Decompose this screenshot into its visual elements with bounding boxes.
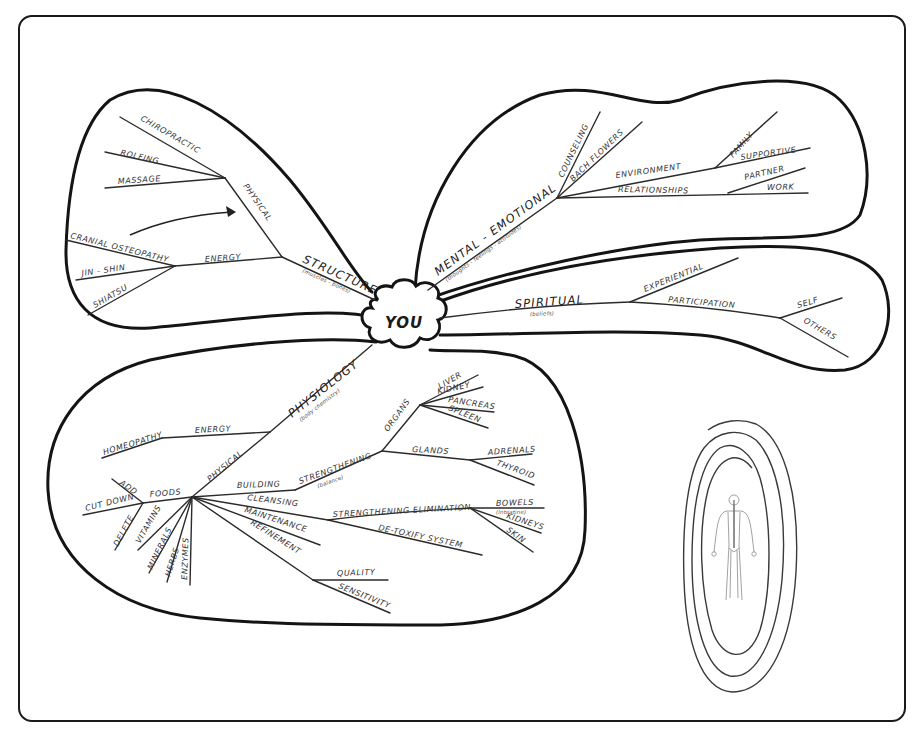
chiropractic-label: CHIROPRACTIC: [139, 114, 202, 155]
delete-label: DELETE: [112, 513, 136, 548]
structure-physical-label: PHYSICAL: [241, 182, 273, 223]
physiology-label: PHYSIOLOGY: [285, 357, 361, 421]
environment-label: ENVIRONMENT: [615, 162, 682, 180]
human-figure-spiral-illustration: [684, 421, 797, 692]
spiritual-sub-label: (beliefs): [530, 310, 554, 317]
spiral-icon: [684, 421, 797, 692]
structure-branches: [66, 117, 375, 315]
center-label: YOU: [385, 314, 423, 332]
spiritual-label: SPIRITUAL: [514, 292, 584, 311]
bowels-label: BOWELS: [496, 498, 534, 508]
building-label: BUILDING: [237, 479, 281, 490]
organs-label: ORGANS: [382, 397, 412, 433]
relationships-label: RELATIONSHIPS: [618, 185, 689, 195]
arrow-head-icon: [226, 206, 236, 217]
herbs-label: HERBS: [163, 546, 181, 578]
others-label: OTHERS: [802, 316, 838, 342]
mental-emotional-label: MENTAL - EMOTIONAL: [432, 180, 560, 278]
homeopathy-label: HOMEOPATHY: [102, 430, 164, 457]
sensitivity-label: SENSITIVITY: [337, 582, 392, 611]
foods-label: FOODS: [149, 487, 181, 499]
rolfing-label: ROLFING: [120, 148, 161, 166]
shiatsu-label: SHIATSU: [92, 283, 130, 310]
spiritual-branches: [440, 258, 848, 357]
work-label: WORK: [767, 183, 795, 192]
quality-label: QUALITY: [337, 568, 376, 578]
strengthening-elimination-label: STRENGTHENING ELIMINATION: [333, 503, 472, 519]
supportive-label: SUPPORTIVE: [740, 145, 797, 162]
physiology-physical-label: PHYSICAL: [206, 449, 245, 484]
spiritual-lobe-outline: [438, 246, 889, 370]
experiential-label: EXPERIENTIAL: [642, 262, 704, 294]
adrenals-label: ADRENALS: [487, 445, 537, 457]
partner-label: PARTNER: [743, 164, 785, 182]
nervous-system-figure: [712, 495, 756, 600]
detoxify-label: DE-TOXIFY SYSTEM: [378, 523, 464, 550]
cranial-osteopathy-label: CRANIAL OSTEOPATHY: [70, 231, 171, 264]
cleansing-label: CLEANSING: [247, 493, 299, 508]
mind-map: YOU STRUCTURE (muscles - bones) PHYSICAL…: [0, 0, 924, 738]
arrow-line: [130, 212, 232, 235]
structure-energy-label: ENERGY: [205, 252, 242, 264]
physiology-energy-label: ENERGY: [195, 424, 232, 435]
self-label: SELF: [796, 295, 819, 310]
enzymes-label: ENZYMES: [180, 537, 190, 580]
